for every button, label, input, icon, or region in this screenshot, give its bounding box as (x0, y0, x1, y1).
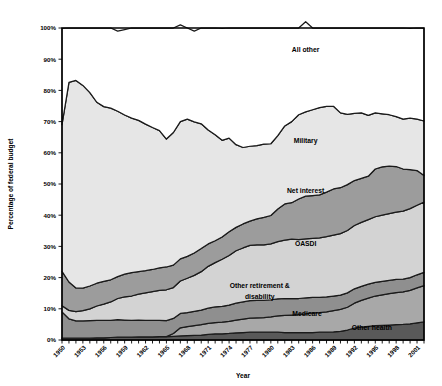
series-label: Medicare (292, 310, 322, 317)
series-label: Net interest (287, 187, 325, 194)
x-tick-label: 1980 (260, 343, 275, 358)
x-tick-label: 1992 (344, 343, 359, 358)
x-tick-label: 1956 (93, 343, 108, 358)
x-tick-label: 1995 (365, 343, 380, 358)
y-tick-label: 100% (40, 24, 56, 31)
x-tick-label: 1974 (219, 343, 234, 358)
x-tick-label: 1998 (386, 343, 401, 358)
y-tick-label: 30% (44, 243, 57, 250)
x-tick-label: 1986 (302, 343, 317, 358)
y-tick-label: 40% (44, 212, 57, 219)
y-tick-label: 70% (44, 118, 57, 125)
series-label: All other (292, 46, 320, 53)
x-axis-tick-labels: 1950195319561959196219651968197119741977… (52, 343, 422, 358)
y-tick-label: 20% (44, 274, 57, 281)
x-tick-label: 2001 (407, 343, 422, 358)
area-bands (62, 22, 424, 340)
x-tick-label: 1968 (177, 343, 192, 358)
series-label: Other retirement & (230, 282, 290, 289)
x-tick-label: 1950 (52, 343, 67, 358)
x-tick-label: 1977 (239, 343, 254, 358)
x-tick-label: 1965 (156, 343, 171, 358)
x-tick-label: 1989 (323, 343, 338, 358)
x-tick-label: 1983 (281, 343, 296, 358)
x-tick-label: 1959 (114, 343, 129, 358)
x-tick-label: 1971 (198, 343, 213, 358)
x-axis-title: Year (236, 372, 250, 379)
chart-container: 0%10%20%30%40%50%60%70%80%90%100% 195019… (0, 0, 442, 386)
series-label: Other health (352, 324, 392, 331)
y-tick-label: 0% (47, 336, 56, 343)
y-tick-label: 50% (44, 180, 57, 187)
y-tick-label: 80% (44, 87, 57, 94)
x-tick-label: 1953 (72, 343, 87, 358)
y-tick-label: 90% (44, 56, 57, 63)
x-tick-label: 1962 (135, 343, 150, 358)
y-tick-label: 10% (44, 305, 57, 312)
series-label: disability (245, 293, 275, 301)
y-tick-label: 60% (44, 149, 57, 156)
y-axis-tick-labels: 0%10%20%30%40%50%60%70%80%90%100% (40, 24, 56, 343)
series-label: OASDI (295, 240, 317, 247)
stacked-area-chart: 0%10%20%30%40%50%60%70%80%90%100% 195019… (0, 0, 442, 386)
series-label: Military (294, 137, 318, 145)
y-axis-title: Percentage of federal budget (7, 138, 15, 230)
